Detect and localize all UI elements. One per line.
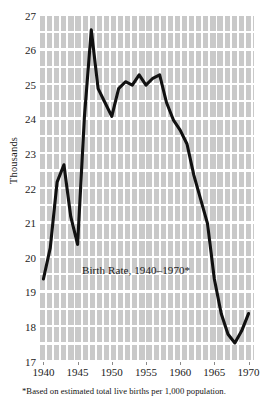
y-tick-label: 25 [16,80,36,91]
y-tick-label: 21 [16,218,36,229]
x-tick-mark [112,362,113,365]
x-tick-mark [146,362,147,365]
chart-footnote: *Based on estimated total live births pe… [22,386,226,396]
y-axis-tick-labels: 1718192021222324252627 [14,0,36,406]
x-tick-mark [214,362,215,365]
y-tick-label: 18 [16,322,36,333]
y-tick-label: 22 [16,184,36,195]
y-tick-label: 26 [16,45,36,56]
x-tick-mark [249,362,250,365]
y-tick-label: 19 [16,287,36,298]
x-tick-label: 1970 [229,366,269,379]
plot-area [40,16,254,362]
x-axis-tick-labels: 1940194519501955196019651970 [40,366,254,382]
y-tick-label: 20 [16,253,36,264]
x-tick-mark [180,362,181,365]
data-line-svg [40,16,254,362]
x-tick-mark [78,362,79,365]
birth-rate-chart-figure: Thousands 1718192021222324252627 Birth R… [0,0,273,406]
y-tick-label: 23 [16,149,36,160]
x-tick-mark [43,362,44,365]
y-tick-label: 27 [16,11,36,22]
y-tick-label: 24 [16,114,36,125]
birth-rate-line [43,30,248,343]
chart-inline-title: Birth Rate, 1940–1970* [82,264,190,276]
